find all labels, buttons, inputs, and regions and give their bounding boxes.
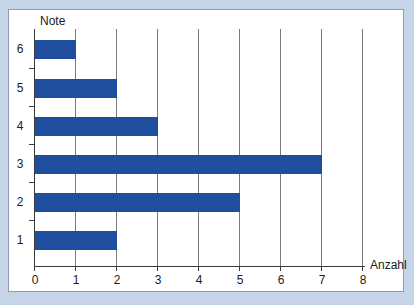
x-tick-7 [321,267,322,271]
x-tick-label-1: 1 [66,274,86,286]
y-tick-label-2-wrap: 2 [9,196,27,208]
y-tick-label-3: 3 [13,158,27,170]
bar-note-1 [35,231,117,250]
x-tick-2 [116,267,117,271]
bar-note-6 [35,40,76,59]
gridline-x-6 [280,29,281,266]
page-background: Note Anzahl [0,0,414,305]
x-tick-3 [157,267,158,271]
y-tick-label-6: 6 [13,43,27,55]
figure-card: Note Anzahl [8,9,404,292]
gridline-x-7 [321,29,322,266]
x-tick-label-4: 4 [189,274,209,286]
bar-note-4 [35,117,158,136]
x-tick-label-0: 0 [25,274,45,286]
y-axis-line [34,29,35,267]
x-axis-title: Anzahl [370,259,407,272]
gridline-x-8 [362,29,363,266]
x-tick-0 [34,267,35,271]
x-tick-1 [75,267,76,271]
x-tick-label-6: 6 [271,274,291,286]
bar-note-5 [35,79,117,98]
y-tick-label-1: 1 [13,234,27,246]
chart-plot-area: Note Anzahl [9,10,405,293]
y-tick-label-2: 2 [13,196,27,208]
x-tick-6 [280,267,281,271]
x-tick-label-5: 5 [230,274,250,286]
y-tick-label-3-wrap: 3 [9,158,27,170]
gridline-x-3 [157,29,158,266]
gridline-x-5 [239,29,240,266]
y-axis-title: Note [40,15,65,28]
y-tick-label-4-wrap: 4 [9,120,27,132]
y-tick-label-4: 4 [13,120,27,132]
x-tick-label-7: 7 [312,274,332,286]
x-tick-label-3: 3 [148,274,168,286]
bar-note-2 [35,193,240,212]
y-tick-label-5: 5 [13,82,27,94]
gridline-x-4 [198,29,199,266]
x-tick-label-8: 8 [353,274,373,286]
y-tick-label-1-wrap: 1 [9,234,27,246]
x-tick-8 [362,267,363,271]
x-tick-5 [239,267,240,271]
bar-note-3 [35,155,322,174]
x-axis-line [34,266,365,267]
x-tick-4 [198,267,199,271]
x-tick-label-2: 2 [107,274,127,286]
y-tick-label-6-wrap: 6 [9,43,27,55]
y-tick-label-5-wrap: 5 [9,82,27,94]
